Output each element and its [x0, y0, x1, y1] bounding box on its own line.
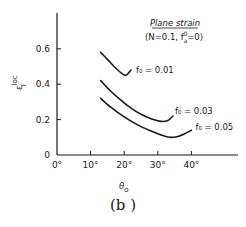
x-tick-label: 20°	[116, 160, 132, 170]
chart: 00.20.40.6 0°10°20°30°40° f₀ = 0.01f₀ = …	[0, 0, 246, 227]
x-axis-label: θo	[119, 181, 129, 194]
curve-1	[101, 81, 173, 122]
y-tick-label: 0	[44, 150, 50, 160]
figure-caption: (b )	[0, 196, 246, 214]
curve-label: f₀ = 0.05	[195, 122, 233, 132]
x-tick-label: 40°	[183, 160, 199, 170]
x-ticks: 0°10°20°30°40°	[52, 151, 199, 170]
y-tick-label: 0.6	[36, 44, 51, 54]
y-tick-label: 0.2	[36, 115, 50, 125]
curve-2	[101, 98, 192, 137]
curve-label: f₀ = 0.03	[175, 106, 213, 116]
curve-label: f₀ = 0.01	[136, 65, 174, 75]
curve-labels: f₀ = 0.01f₀ = 0.03f₀ = 0.05	[136, 65, 233, 132]
y-tick-label: 0.4	[36, 79, 51, 89]
y-axis-label: εlocI	[11, 75, 28, 90]
curve-0	[101, 52, 131, 75]
svg-text:εlocI: εlocI	[11, 75, 28, 90]
x-tick-label: 0°	[52, 160, 62, 170]
x-tick-label: 30°	[150, 160, 166, 170]
chart-title: Plane strain	[150, 18, 200, 28]
x-tick-label: 10°	[83, 160, 99, 170]
chart-subtitle: (N=0.1, fa0=0)	[145, 30, 203, 44]
